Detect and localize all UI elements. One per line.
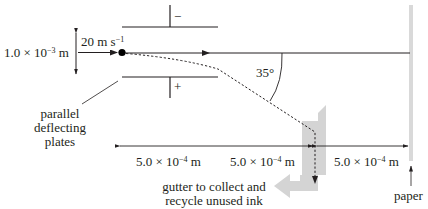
paper-strip (409, 5, 413, 161)
gutter-icon (274, 105, 326, 198)
negative-sign: − (174, 10, 181, 24)
velocity-label: 20 m s−1 (81, 35, 124, 49)
angle-label: 35° (256, 66, 274, 80)
plates-pointer (82, 81, 118, 104)
gutter-label: gutter to collect and recycle unused ink (152, 180, 276, 208)
negative-plate (122, 5, 218, 27)
plates-label: parallel deflecting plates (30, 107, 90, 149)
distance-label-1: 5.0 × 10−4 m (136, 155, 201, 169)
plate-separation-label: 1.0 × 10−3 m (4, 46, 69, 60)
distance-label-3: 5.0 × 10−4 m (334, 155, 399, 169)
diagram-canvas (0, 0, 428, 209)
path-arrowhead (202, 50, 210, 56)
ink-drop (118, 49, 125, 56)
positive-sign: + (174, 80, 181, 94)
distance-label-2: 5.0 × 10−4 m (230, 155, 295, 169)
paper-label: paper (394, 189, 423, 203)
positive-plate (122, 77, 218, 98)
